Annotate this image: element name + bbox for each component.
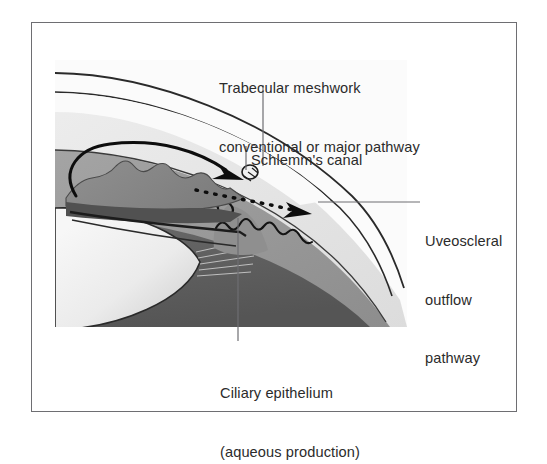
uveoscleral-outflow-label: Uveoscleral outflow pathway xyxy=(425,193,502,408)
schlemm-label-line1: Schlemm's canal xyxy=(251,151,362,171)
schlemms-canal-label: Schlemm's canal xyxy=(251,112,362,210)
ciliary-label-line1: Ciliary epithelium xyxy=(220,384,360,404)
uveoscleral-label-line1: Uveoscleral xyxy=(425,232,502,252)
ciliary-label-line2: (aqueous production) xyxy=(220,443,360,463)
trabecular-label-line1: Trabecular meshwork xyxy=(219,79,420,99)
uveoscleral-label-line3: pathway xyxy=(425,349,502,369)
ciliary-epithelium-label: Ciliary epithelium (aqueous production) xyxy=(220,345,360,464)
uveoscleral-label-line2: outflow xyxy=(425,291,502,311)
